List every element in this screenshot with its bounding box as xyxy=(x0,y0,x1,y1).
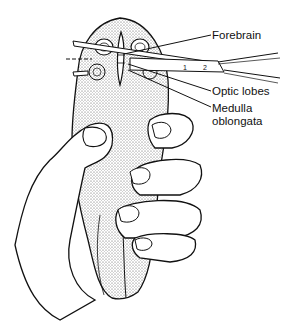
scissors-mark-2: 2 xyxy=(203,64,207,71)
label-optic-lobes: Optic lobes xyxy=(212,85,270,97)
pithing-illustration: 1 2 Forebrain Optic lobes Medu xyxy=(0,0,287,334)
label-medulla: Medulla xyxy=(212,102,252,114)
scissors-mark-1: 1 xyxy=(183,64,187,71)
label-oblongata: oblongata xyxy=(212,115,263,127)
label-forebrain: Forebrain xyxy=(212,29,261,41)
